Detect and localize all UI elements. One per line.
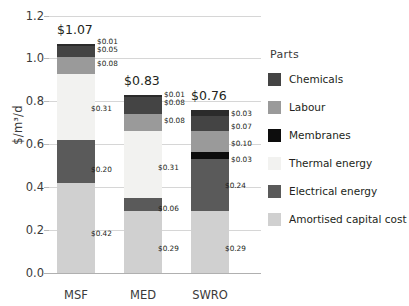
segment-label-swro-membranes: $0.03 — [231, 156, 252, 163]
bar-med[interactable] — [124, 95, 162, 273]
bar-swro-segment-electrical-energy — [191, 159, 229, 211]
bar-med-segment-electrical-energy — [124, 198, 162, 211]
x-axis-label-swro: SWRO — [180, 288, 240, 302]
bar-swro-segment-capital-cost — [191, 211, 229, 273]
legend-item-electrical-energy[interactable]: Electrical energy — [268, 184, 408, 198]
legend-item-thermal-energy[interactable]: Thermal energy — [268, 156, 408, 170]
segment-label-swro-chemicals: $0.07 — [231, 123, 252, 130]
bar-med-segment-capital-cost — [124, 211, 162, 273]
legend-item-membranes[interactable]: Membranes — [268, 128, 408, 142]
segment-label-swro-other: $0.03 — [231, 110, 252, 117]
bar-msf-segment-labour — [57, 57, 95, 74]
legend-item-chemicals[interactable]: Chemicals — [268, 72, 408, 86]
stacked-bar-chart: $/m³/d 1.2 1.0 0.8 0.6 0.4 0.2 0.0 — [0, 0, 409, 306]
legend-swatch-electrical-energy-icon — [268, 185, 281, 198]
bar-msf-segment-chemicals — [57, 46, 95, 57]
segment-label-swro-labour: $0.10 — [231, 140, 252, 147]
bar-msf-segment-electrical-energy — [57, 140, 95, 183]
legend-swatch-chemicals-icon — [268, 73, 281, 86]
segment-label-msf-labour: $0.08 — [97, 60, 118, 67]
bar-total-label-med: $0.83 — [124, 73, 160, 88]
legend-title: Parts — [270, 48, 408, 61]
segment-label-med-labour: $0.08 — [164, 117, 185, 124]
legend-item-capital-cost[interactable]: Amortised capital cost — [268, 212, 408, 226]
legend-swatch-thermal-energy-icon — [268, 157, 281, 170]
legend-swatch-labour-icon — [268, 101, 281, 114]
legend-swatch-capital-cost-icon — [268, 213, 281, 226]
bar-med-segment-labour — [124, 114, 162, 131]
segment-label-msf-chemicals: $0.05 — [97, 46, 118, 53]
legend-label-electrical-energy: Electrical energy — [289, 185, 377, 197]
bar-swro-segment-labour — [191, 131, 229, 152]
legend-label-labour: Labour — [289, 101, 325, 113]
segment-label-med-electrical: $0.06 — [158, 205, 179, 212]
legend-label-membranes: Membranes — [289, 129, 351, 141]
segment-label-swro-capital: $0.29 — [225, 245, 246, 252]
segment-label-msf-electrical: $0.20 — [91, 166, 112, 173]
bar-total-label-msf: $1.07 — [57, 22, 93, 37]
legend-swatch-membranes-icon — [268, 129, 281, 142]
bar-total-label-swro: $0.76 — [191, 88, 227, 103]
segment-label-med-capital: $0.29 — [158, 245, 179, 252]
segment-label-swro-electrical: $0.24 — [225, 182, 246, 189]
segment-label-med-thermal: $0.31 — [158, 164, 179, 171]
bar-med-segment-chemicals — [124, 97, 162, 114]
bar-msf-segment-thermal-energy — [57, 74, 95, 140]
bar-med-segment-thermal-energy — [124, 131, 162, 198]
bar-msf[interactable] — [57, 44, 95, 273]
legend-item-labour[interactable]: Labour — [268, 100, 408, 114]
bar-swro-segment-chemicals — [191, 116, 229, 131]
legend-label-chemicals: Chemicals — [289, 73, 343, 85]
segment-label-msf-capital: $0.42 — [91, 230, 112, 237]
segment-label-msf-thermal: $0.31 — [91, 105, 112, 112]
bar-swro-segment-membranes — [191, 152, 229, 159]
legend-label-thermal-energy: Thermal energy — [289, 157, 372, 169]
x-axis-label-med: MED — [113, 288, 173, 302]
legend: Parts Chemicals Labour Membranes Thermal… — [268, 48, 408, 240]
x-axis-label-msf: MSF — [46, 288, 106, 302]
bar-swro[interactable] — [191, 110, 229, 273]
legend-label-capital-cost: Amortised capital cost — [289, 213, 407, 225]
segment-label-med-chemicals: $0.08 — [164, 99, 185, 106]
bar-msf-segment-capital-cost — [57, 183, 95, 273]
